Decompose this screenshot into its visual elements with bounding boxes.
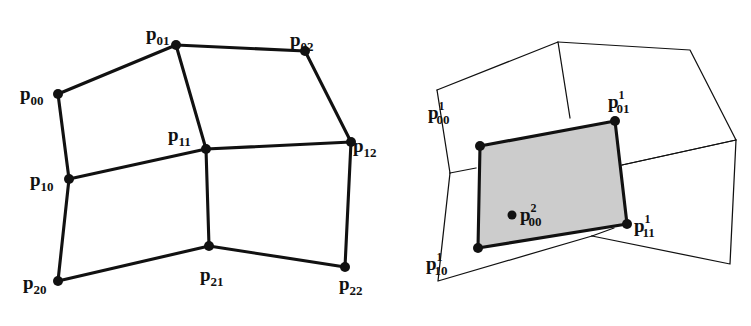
- label-p11: p11: [168, 124, 191, 149]
- vertex-p21: [204, 241, 214, 251]
- vertex-p10: [64, 174, 74, 184]
- label-p10: p10: [30, 169, 54, 194]
- edge-p21-p22: [209, 246, 345, 267]
- label-p00-1: p100: [428, 99, 450, 127]
- edge-p10-p20: [58, 179, 69, 281]
- edge-top-left-quad: [437, 42, 570, 118]
- label-p21-base: p: [200, 264, 211, 285]
- label-p00-1-sup: 1: [439, 99, 445, 113]
- vertex-p01-1: [610, 116, 620, 126]
- edge-p01-p02: [176, 45, 305, 51]
- label-p10-sub: 10: [41, 179, 54, 194]
- vertex-p01: [171, 40, 181, 50]
- left-panel-labels: p00 p01 p02 p10 p11 p12 p20 p21 p22: [20, 23, 377, 298]
- left-panel-control-mesh: p00 p01 p02 p10 p11 p12 p20 p21 p22: [20, 23, 377, 298]
- edge-p11-p21: [206, 149, 209, 246]
- label-p11-1-sup: 1: [645, 212, 651, 226]
- edge-bottom-quad-inner: [450, 168, 476, 173]
- vertex-p00-1: [475, 141, 485, 151]
- label-p01-1-sub: 01: [617, 101, 630, 116]
- label-p02-sub: 02: [301, 39, 314, 54]
- label-p00-2-sup: 2: [531, 201, 537, 215]
- label-p00-2-sub: 00: [529, 214, 542, 229]
- figure-root: p00 p01 p02 p10 p11 p12 p20 p21 p22: [0, 0, 751, 326]
- label-p10-base: p: [30, 169, 41, 190]
- edge-p10-p11: [69, 149, 206, 179]
- edge-face-left: [478, 146, 480, 248]
- label-p01-1-sup: 1: [619, 88, 625, 102]
- label-p10-1-sub: 10: [435, 263, 448, 278]
- label-p20-base: p: [23, 272, 34, 293]
- label-p00-1-sub: 00: [437, 112, 450, 127]
- label-p11-sub: 11: [179, 134, 191, 149]
- vertex-p22: [340, 262, 350, 272]
- label-p01: p01: [146, 23, 170, 48]
- subdivision-surface-figure: p00 p01 p02 p10 p11 p12 p20 p21 p22: [0, 0, 751, 326]
- label-p01-sub: 01: [157, 33, 170, 48]
- label-p20: p20: [23, 272, 47, 297]
- vertex-p10-1: [473, 243, 483, 253]
- label-p12-base: p: [353, 135, 364, 156]
- vertex-p00-2: [508, 211, 517, 220]
- label-p21: p21: [200, 264, 224, 289]
- edge-p11-p12: [206, 142, 351, 149]
- vertex-p00: [53, 89, 63, 99]
- label-p12: p12: [353, 135, 377, 160]
- label-p22: p22: [339, 273, 363, 298]
- right-panel-refined-mesh: p100 p101 p110 p111 p200: [426, 42, 736, 281]
- edge-p00-p01: [58, 45, 176, 94]
- label-p01-base: p: [146, 23, 157, 44]
- edge-right-quad-inner: [622, 140, 736, 165]
- label-p00-base: p: [20, 83, 31, 104]
- label-p22-base: p: [339, 273, 350, 294]
- label-p11-1-sub: 11: [643, 225, 655, 240]
- label-p22-sub: 22: [350, 283, 363, 298]
- label-p00: p00: [20, 83, 44, 108]
- label-p11-base: p: [168, 124, 179, 145]
- label-p21-sub: 21: [211, 274, 224, 289]
- label-p01-1: p101: [608, 88, 630, 116]
- edge-p02-p12: [305, 51, 351, 142]
- label-p10-1: p110: [426, 250, 448, 278]
- vertex-p11-1: [622, 219, 632, 229]
- edge-p20-p21: [58, 246, 209, 281]
- label-p12-sub: 12: [364, 145, 377, 160]
- label-p20-sub: 20: [34, 282, 47, 297]
- label-p11-1: p111: [634, 212, 655, 240]
- edge-p12-p22: [345, 142, 351, 267]
- vertex-p20: [53, 276, 63, 286]
- label-p10-1-sup: 1: [437, 250, 443, 264]
- label-p00-sub: 00: [31, 93, 44, 108]
- edge-p00-p10: [58, 94, 69, 179]
- label-p02-base: p: [290, 29, 301, 50]
- vertex-p11: [201, 144, 211, 154]
